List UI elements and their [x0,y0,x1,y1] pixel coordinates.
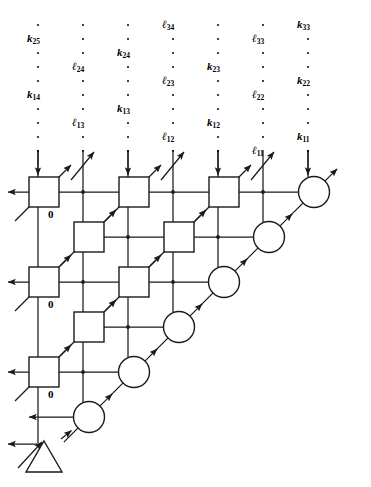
input-label-k25: k25 [27,33,40,44]
input-label-l13: ℓ13 [72,117,84,128]
ellipsis-dot [37,66,39,68]
input-label-l23: ℓ23 [162,75,174,86]
junction-dot [126,325,130,329]
ellipsis-dot [82,80,84,82]
node-layer [26,177,330,473]
square-processing-cell [74,222,104,252]
ellipsis-dot [37,108,39,110]
square-processing-cell [29,267,59,297]
square-processing-cell [29,357,59,387]
ellipsis-dot [307,150,309,152]
systolic-array-figure: k25k14ℓ24ℓ13k24k13ℓ34ℓ23ℓ12k23k12ℓ33ℓ22ℓ… [0,0,371,487]
ellipsis-dot [217,94,219,96]
square-processing-cell [209,177,239,207]
ellipsis-dot [262,136,264,138]
square-processing-cell [119,177,149,207]
ellipsis-dot [262,66,264,68]
ellipsis-dot [262,52,264,54]
ellipsis-dot [262,24,264,26]
circle-boundary-cell [164,312,195,343]
diagram-canvas [0,0,371,487]
ellipsis-dot [307,94,309,96]
ellipsis-dot [82,94,84,96]
ellipsis-dot [127,24,129,26]
input-label-k12: k12 [207,117,220,128]
circle-boundary-cell [209,267,240,298]
input-label-l33: ℓ33 [252,33,264,44]
input-label-l12: ℓ12 [162,131,174,142]
ellipsis-dot [82,38,84,40]
junction-dot [261,190,265,194]
junction-dot [126,235,130,239]
square-processing-cell [74,312,104,342]
input-label-l22: ℓ22 [252,89,264,100]
ellipsis-dot [172,150,174,152]
ellipsis-dot [82,108,84,110]
ellipsis-dot [217,24,219,26]
input-label-k13: k13 [117,103,130,114]
ellipsis-dot [172,108,174,110]
input-label-l11: ℓ11 [252,145,264,156]
ellipsis-dot [127,150,129,152]
ellipsis-dot [37,150,39,152]
input-label-k22: k22 [297,75,310,86]
circle-boundary-cell [299,177,330,208]
circle-boundary-cell [74,402,105,433]
ellipsis-dot [127,94,129,96]
ellipsis-dot [307,66,309,68]
square-processing-cell [164,222,194,252]
junction-dot [171,280,175,284]
ellipsis-dot [127,80,129,82]
ellipsis-dot [127,122,129,124]
junction-dot [81,280,85,284]
ellipsis-dot [82,150,84,152]
ellipsis-dot [172,52,174,54]
ellipsis-dot [307,52,309,54]
ellipsis-dot [262,80,264,82]
ellipsis-dot [172,38,174,40]
ellipsis-dot [217,108,219,110]
ellipsis-dot [82,24,84,26]
ellipsis-dot [172,66,174,68]
ellipsis-dot [217,150,219,152]
zero-annotation: 0 [48,208,54,220]
input-label-l24: ℓ24 [72,61,84,72]
ellipsis-dot [217,38,219,40]
square-processing-cell [119,267,149,297]
ellipsis-dot [37,122,39,124]
ellipsis-dot [37,52,39,54]
input-label-k11: k11 [297,131,310,142]
ellipsis-dot [127,136,129,138]
ellipsis-dot [217,136,219,138]
input-label-k14: k14 [27,89,40,100]
junction-dot [216,235,220,239]
input-label-k23: k23 [207,61,220,72]
junction-dot [81,370,85,374]
input-label-k33: k33 [297,19,310,30]
ellipsis-dot [217,80,219,82]
zero-annotation: 0 [48,388,54,400]
input-label-l34: ℓ34 [162,19,174,30]
ellipsis-dot [262,122,264,124]
ellipsis-dot [82,136,84,138]
ellipsis-dot [82,52,84,54]
ellipsis-dot [307,38,309,40]
input-label-k24: k24 [117,47,130,58]
ellipsis-dot [37,80,39,82]
ellipsis-dot [172,122,174,124]
ellipsis-dot [127,66,129,68]
ellipsis-dot [262,108,264,110]
ellipsis-dot [307,122,309,124]
zero-annotation: 0 [48,298,54,310]
ellipsis-dot [37,24,39,26]
square-processing-cell [29,177,59,207]
ellipsis-dot [37,136,39,138]
diagonal-arrow [61,431,72,440]
junction-dot [81,190,85,194]
junction-dot [171,190,175,194]
circle-boundary-cell [119,357,150,388]
ellipsis-dot [217,52,219,54]
ellipsis-dot [127,38,129,40]
circle-boundary-cell [254,222,285,253]
triangle-output-cell [26,441,62,472]
